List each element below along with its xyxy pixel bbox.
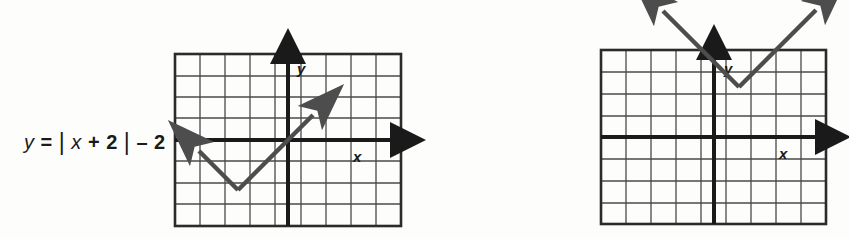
- figure-right-absolute-value-graph: y = | x – 1 | + 2: [424, 0, 849, 239]
- left-absolute-value-curve: [199, 115, 313, 190]
- right-x-axis-label: x: [778, 145, 788, 162]
- left-graph-canvas: y x: [0, 0, 425, 239]
- right-absolute-value-curve: [663, 10, 816, 87]
- left-x-axis-label: x: [352, 148, 362, 165]
- figure-left-absolute-value-graph: y = | x + 2 | – 2: [0, 0, 425, 239]
- left-y-axis-label: y: [296, 60, 306, 77]
- right-graph-canvas: y x: [424, 0, 849, 239]
